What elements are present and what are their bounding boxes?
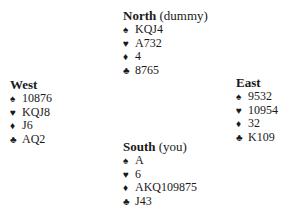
- west-name: West: [10, 77, 37, 92]
- south-clubs: J43: [135, 194, 152, 208]
- east-hand: East ♠9532 ♥10954 ♦32 ♣K109: [236, 76, 278, 144]
- south-name: South: [123, 139, 156, 154]
- west-diamonds-row: ♦J6: [10, 119, 52, 133]
- club-icon: ♣: [10, 133, 22, 147]
- north-spades-row: ♠KQJ4: [123, 23, 208, 37]
- spade-icon: ♠: [123, 154, 135, 168]
- heart-icon: ♥: [123, 37, 135, 51]
- east-clubs-row: ♣K109: [236, 131, 278, 145]
- north-diamonds: 4: [135, 49, 141, 63]
- north-hearts: A732: [135, 36, 162, 50]
- south-title: South (you): [123, 140, 197, 154]
- west-clubs-row: ♣AQ2: [10, 133, 52, 147]
- south-diamonds: AKQ109875: [135, 180, 197, 194]
- south-hearts: 6: [135, 167, 141, 181]
- north-spades: KQJ4: [135, 22, 163, 36]
- north-diamonds-row: ♦4: [123, 50, 208, 64]
- west-clubs: AQ2: [22, 132, 45, 146]
- spade-icon: ♠: [10, 92, 22, 106]
- diamond-icon: ♦: [123, 50, 135, 64]
- south-spades: A: [135, 153, 144, 167]
- east-title: East: [236, 76, 278, 90]
- spade-icon: ♠: [123, 23, 135, 37]
- south-role: (you): [159, 139, 187, 154]
- east-spades: 9532: [248, 89, 272, 103]
- east-name: East: [236, 75, 261, 90]
- west-spades-row: ♠10876: [10, 92, 52, 106]
- north-hand: North (dummy) ♠KQJ4 ♥A732 ♦4 ♣8765: [123, 9, 208, 77]
- north-clubs-row: ♣8765: [123, 64, 208, 78]
- east-diamonds: 32: [248, 116, 260, 130]
- east-clubs: K109: [248, 130, 275, 144]
- east-spades-row: ♠9532: [236, 90, 278, 104]
- west-title: West: [10, 78, 52, 92]
- south-clubs-row: ♣J43: [123, 195, 197, 209]
- north-name: North: [123, 8, 156, 23]
- heart-icon: ♥: [123, 168, 135, 182]
- west-hearts: KQJ8: [22, 105, 50, 119]
- west-diamonds: J6: [22, 118, 33, 132]
- club-icon: ♣: [123, 195, 135, 209]
- west-hand: West ♠10876 ♥KQJ8 ♦J6 ♣AQ2: [10, 78, 52, 146]
- heart-icon: ♥: [10, 106, 22, 120]
- south-hand: South (you) ♠A ♥6 ♦AKQ109875 ♣J43: [123, 140, 197, 208]
- diamond-icon: ♦: [236, 117, 248, 131]
- diamond-icon: ♦: [10, 119, 22, 133]
- south-diamonds-row: ♦AKQ109875: [123, 181, 197, 195]
- club-icon: ♣: [236, 131, 248, 145]
- heart-icon: ♥: [236, 104, 248, 118]
- west-spades: 10876: [22, 91, 52, 105]
- south-spades-row: ♠A: [123, 154, 197, 168]
- diamond-icon: ♦: [123, 181, 135, 195]
- north-clubs: 8765: [135, 63, 159, 77]
- south-hearts-row: ♥6: [123, 168, 197, 182]
- east-diamonds-row: ♦32: [236, 117, 278, 131]
- club-icon: ♣: [123, 64, 135, 78]
- north-title: North (dummy): [123, 9, 208, 23]
- north-hearts-row: ♥A732: [123, 37, 208, 51]
- north-role: (dummy): [159, 8, 207, 23]
- spade-icon: ♠: [236, 90, 248, 104]
- west-hearts-row: ♥KQJ8: [10, 106, 52, 120]
- east-hearts: 10954: [248, 103, 278, 117]
- east-hearts-row: ♥10954: [236, 104, 278, 118]
